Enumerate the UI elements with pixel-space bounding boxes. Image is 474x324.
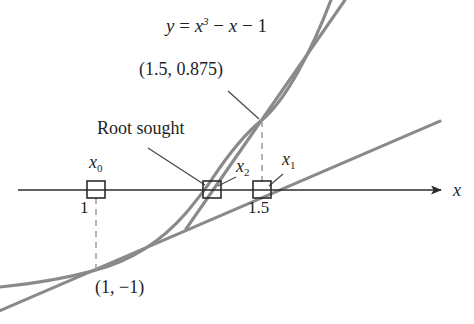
equation-exponent: 3 bbox=[203, 15, 209, 27]
cubic-curve bbox=[0, 0, 331, 287]
label-x1-name: x bbox=[282, 149, 290, 169]
point-label-lower: (1, −1) bbox=[95, 278, 144, 296]
label-x2-sub: 2 bbox=[244, 166, 250, 178]
label-x2: x2 bbox=[236, 157, 250, 175]
tick-label-1: 1 bbox=[80, 199, 89, 216]
label-x1: x1 bbox=[282, 150, 296, 168]
equation-term-2: x bbox=[229, 15, 237, 36]
equation-minus-1: − bbox=[213, 15, 224, 36]
label-x0-name: x bbox=[89, 152, 97, 172]
label-x2-name: x bbox=[236, 156, 244, 176]
marker-x2-root bbox=[203, 181, 221, 198]
equation-label: y = x3 − x − 1 bbox=[166, 16, 267, 35]
label-x0: x0 bbox=[89, 153, 103, 171]
equation-term-3: 1 bbox=[257, 15, 267, 36]
secant-method-figure: y = x3 − x − 1 (1.5, 0.875) Root sought … bbox=[0, 0, 474, 324]
equation-equals: = bbox=[179, 15, 190, 36]
label-x0-sub: 0 bbox=[97, 162, 103, 174]
tick-label-1-5: 1.5 bbox=[248, 199, 269, 216]
marker-x1 bbox=[253, 181, 271, 198]
equation-minus-2: − bbox=[242, 15, 253, 36]
x-axis-label: x bbox=[453, 181, 461, 199]
leader-line-root-sought bbox=[148, 148, 205, 185]
marker-x0 bbox=[87, 181, 105, 198]
point-label-upper: (1.5, 0.875) bbox=[139, 60, 223, 78]
equation-base: x bbox=[195, 15, 203, 36]
secant-line-1 bbox=[0, 121, 440, 310]
leader-line-point-upper bbox=[228, 91, 259, 119]
label-x1-sub: 1 bbox=[290, 159, 296, 171]
root-sought-label: Root sought bbox=[97, 119, 185, 137]
